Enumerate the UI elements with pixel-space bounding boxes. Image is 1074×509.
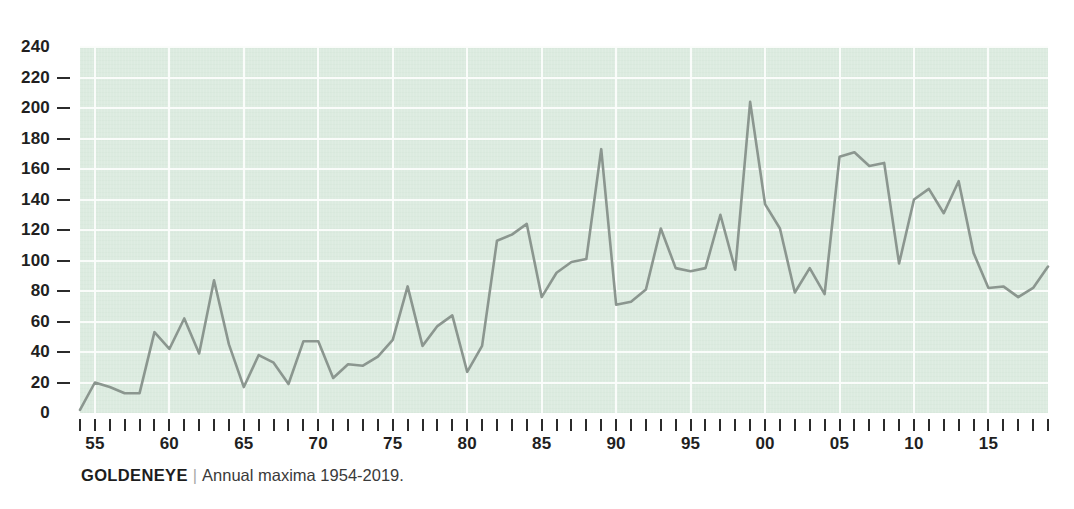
caption-title: GOLDENEYE xyxy=(81,466,188,484)
x-tick-1979 xyxy=(451,419,453,431)
x-tick-2007 xyxy=(868,419,870,431)
x-tick-label-1955: 55 xyxy=(85,435,104,452)
caption-separator: | xyxy=(193,466,197,484)
y-tick-label-180: 180 xyxy=(21,130,50,147)
x-tick-1999 xyxy=(749,419,751,431)
x-tick-1972 xyxy=(347,419,349,431)
x-tick-1965 xyxy=(243,419,245,431)
x-tick-label-1960: 60 xyxy=(160,435,179,452)
x-tick-1997 xyxy=(719,419,721,431)
x-tick-2014 xyxy=(973,419,975,431)
x-tick-1957 xyxy=(124,419,126,431)
chart-figure: 020406080100120140160180200220240 556065… xyxy=(0,0,1074,509)
x-tick-1992 xyxy=(645,419,647,431)
x-tick-label-1970: 70 xyxy=(309,435,328,452)
x-tick-1966 xyxy=(258,419,260,431)
x-tick-1983 xyxy=(511,419,513,431)
x-tick-1986 xyxy=(556,419,558,431)
x-tick-1975 xyxy=(392,419,394,431)
x-tick-1961 xyxy=(183,419,185,431)
x-tick-label-1975: 75 xyxy=(383,435,402,452)
x-tick-1959 xyxy=(153,419,155,431)
x-tick-1973 xyxy=(362,419,364,431)
x-tick-1971 xyxy=(332,419,334,431)
x-tick-2013 xyxy=(958,419,960,431)
y-tick-label-240: 240 xyxy=(21,38,50,55)
x-tick-1996 xyxy=(704,419,706,431)
x-tick-1968 xyxy=(287,419,289,431)
x-tick-2002 xyxy=(794,419,796,431)
y-tick-120 xyxy=(57,229,70,231)
x-tick-1989 xyxy=(600,419,602,431)
x-tick-2004 xyxy=(824,419,826,431)
x-tick-1974 xyxy=(377,419,379,431)
x-tick-2011 xyxy=(928,419,930,431)
x-tick-1976 xyxy=(407,419,409,431)
x-tick-label-2005: 05 xyxy=(830,435,849,452)
x-tick-label-1990: 90 xyxy=(606,435,625,452)
y-tick-100 xyxy=(57,260,70,262)
x-tick-2006 xyxy=(853,419,855,431)
x-tick-2016 xyxy=(1002,419,1004,431)
x-tick-1954 xyxy=(79,419,81,431)
y-tick-200 xyxy=(57,107,70,109)
y-tick-label-40: 40 xyxy=(31,343,50,360)
x-tick-label-2015: 15 xyxy=(979,435,998,452)
x-tick-label-1965: 65 xyxy=(234,435,253,452)
x-tick-1962 xyxy=(198,419,200,431)
x-tick-1955 xyxy=(94,419,96,431)
y-tick-80 xyxy=(57,290,70,292)
y-tick-160 xyxy=(57,168,70,170)
series-line-annual-maxima xyxy=(80,102,1048,410)
y-tick-label-200: 200 xyxy=(21,99,50,116)
x-tick-2003 xyxy=(809,419,811,431)
y-tick-label-20: 20 xyxy=(31,374,50,391)
y-tick-220 xyxy=(57,77,70,79)
x-tick-label-2010: 10 xyxy=(904,435,923,452)
x-tick-1969 xyxy=(302,419,304,431)
x-tick-2010 xyxy=(913,419,915,431)
x-tick-1984 xyxy=(526,419,528,431)
x-axis: 55606570758085909500051015 xyxy=(80,413,1048,463)
x-tick-1995 xyxy=(690,419,692,431)
x-tick-1988 xyxy=(585,419,587,431)
plot-area xyxy=(80,47,1048,413)
y-tick-20 xyxy=(57,382,70,384)
x-tick-1980 xyxy=(466,419,468,431)
y-tick-label-160: 160 xyxy=(21,160,50,177)
x-tick-2008 xyxy=(883,419,885,431)
x-tick-label-2000: 00 xyxy=(755,435,774,452)
y-tick-180 xyxy=(57,138,70,140)
x-tick-2018 xyxy=(1032,419,1034,431)
x-tick-1994 xyxy=(675,419,677,431)
x-tick-1982 xyxy=(496,419,498,431)
x-tick-1987 xyxy=(570,419,572,431)
x-tick-1967 xyxy=(273,419,275,431)
y-tick-label-0: 0 xyxy=(40,404,50,421)
x-tick-1970 xyxy=(317,419,319,431)
series-chart xyxy=(80,47,1048,413)
x-tick-2012 xyxy=(943,419,945,431)
y-tick-label-100: 100 xyxy=(21,252,50,269)
x-tick-1998 xyxy=(734,419,736,431)
x-tick-2017 xyxy=(1017,419,1019,431)
y-tick-140 xyxy=(57,199,70,201)
x-tick-1985 xyxy=(541,419,543,431)
y-tick-label-120: 120 xyxy=(21,221,50,238)
x-tick-1960 xyxy=(168,419,170,431)
y-tick-label-80: 80 xyxy=(31,282,50,299)
y-axis: 020406080100120140160180200220240 xyxy=(0,0,80,460)
x-tick-1978 xyxy=(436,419,438,431)
x-tick-2001 xyxy=(779,419,781,431)
y-tick-label-60: 60 xyxy=(31,313,50,330)
x-tick-1977 xyxy=(422,419,424,431)
x-tick-2000 xyxy=(764,419,766,431)
x-tick-2009 xyxy=(898,419,900,431)
x-tick-label-1985: 85 xyxy=(532,435,551,452)
x-tick-2005 xyxy=(839,419,841,431)
x-tick-1990 xyxy=(615,419,617,431)
x-tick-2019 xyxy=(1047,419,1049,431)
x-tick-2015 xyxy=(987,419,989,431)
x-tick-label-1980: 80 xyxy=(458,435,477,452)
x-tick-1981 xyxy=(481,419,483,431)
